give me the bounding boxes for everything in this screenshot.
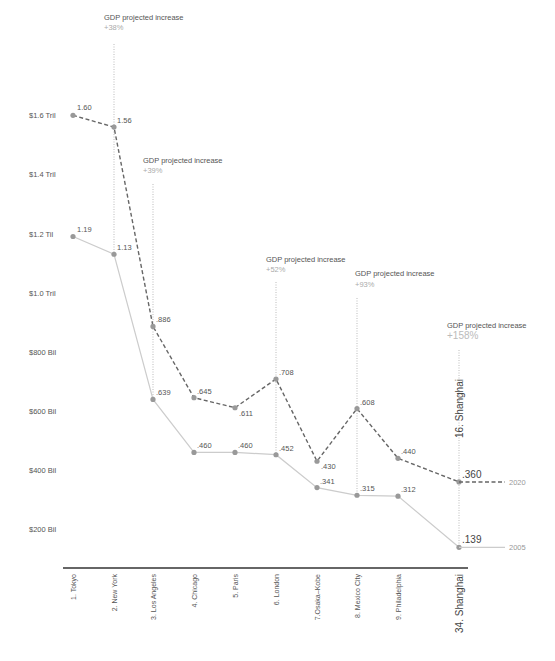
- y-axis-ticks: $1.6 Tril$1.4 Tril$1.2 Til$1.0 Tril$800 …: [29, 111, 56, 534]
- x-category-label: 7.Osaka–Kobe: [314, 574, 321, 620]
- annotation-percent: +158%: [447, 330, 479, 341]
- value-label: 1.13: [117, 243, 132, 252]
- value-label: .440: [401, 447, 416, 456]
- y-tick-label: $600 Bil: [29, 407, 56, 416]
- y-tick-label: $800 Bil: [29, 348, 56, 357]
- x-category-label: 8. Mexico City: [354, 574, 362, 618]
- annotation-title: GDP projected increase: [104, 13, 184, 22]
- data-point: [395, 494, 400, 499]
- data-point: [111, 125, 116, 130]
- value-label: .639: [156, 388, 171, 397]
- y-tick-label: $1.4 Tril: [29, 170, 56, 179]
- annotation-percent: +39%: [143, 166, 163, 175]
- data-point: [191, 395, 196, 400]
- annotation-percent: +38%: [104, 23, 124, 32]
- value-label: .460: [197, 441, 212, 450]
- data-point: [314, 485, 319, 490]
- value-label: .708: [279, 368, 294, 377]
- value-label: .360: [462, 469, 482, 480]
- value-label: .611: [239, 409, 253, 418]
- annotation-labels: GDP projected increase+38%GDP projected …: [104, 13, 527, 438]
- value-label: .341: [320, 477, 335, 486]
- value-label: .312: [401, 485, 416, 494]
- data-point: [232, 405, 237, 410]
- annotation-percent: +93%: [355, 280, 375, 289]
- data-point: [111, 252, 116, 257]
- data-point: [232, 450, 237, 455]
- data-point: [395, 456, 400, 461]
- x-category-label: 9. Philadelphia: [395, 574, 403, 620]
- data-point: [150, 397, 155, 402]
- value-label: .886: [156, 315, 171, 324]
- value-label: .645: [197, 387, 212, 396]
- data-point: [70, 234, 75, 239]
- legend-label-2020: 2020: [509, 478, 526, 487]
- data-point: [191, 450, 196, 455]
- value-label: .139: [462, 534, 482, 545]
- x-category-label: 34. Shanghai: [454, 574, 465, 633]
- x-category-label: 1. Tokyo: [70, 574, 78, 600]
- annotation-title: GDP projected increase: [447, 321, 527, 330]
- value-label: .315: [360, 484, 375, 493]
- gdp-line-chart: $1.6 Tril$1.4 Tril$1.2 Til$1.0 Tril$800 …: [0, 0, 555, 661]
- x-category-label: 2. New York: [111, 574, 118, 612]
- series-line-2020: [73, 115, 459, 482]
- data-point: [273, 452, 278, 457]
- value-label: .608: [360, 398, 375, 407]
- y-tick-label: $200 Bil: [29, 525, 56, 534]
- y-tick-label: $1.6 Tril: [29, 111, 56, 120]
- annotation-title: GDP projected increase: [355, 269, 435, 278]
- annotation-percent: +52%: [266, 265, 286, 274]
- y-tick-label: $1.0 Tril: [29, 289, 56, 298]
- data-point: [273, 376, 278, 381]
- x-category-label: 4. Chicago: [191, 574, 199, 608]
- value-label: 1.60: [77, 103, 92, 112]
- value-label: .452: [279, 444, 294, 453]
- x-category-label: 6. London: [273, 574, 280, 605]
- data-point: [314, 459, 319, 464]
- value-labels: 1.601.56.886.645.611.708.430.608.440.360…: [77, 103, 482, 545]
- x-category-label: 5. Paris: [232, 574, 239, 598]
- series-line-2005: [73, 237, 459, 548]
- data-point: [150, 324, 155, 329]
- legend-label-2005: 2005: [509, 543, 526, 552]
- annotation-title: GDP projected increase: [143, 156, 223, 165]
- y-tick-label: $400 Bil: [29, 466, 56, 475]
- x-category-label: 3. Los Angeles: [150, 574, 158, 620]
- x-axis-labels: 1. Tokyo2. New York3. Los Angeles4. Chic…: [70, 574, 466, 633]
- data-point: [354, 406, 359, 411]
- value-label: 1.56: [117, 116, 132, 125]
- shanghai-2020-rank-label: 16. Shanghai: [454, 379, 465, 438]
- data-point: [354, 493, 359, 498]
- value-label: .430: [321, 462, 336, 471]
- annotation-lines: [114, 44, 459, 547]
- annotation-title: GDP projected increase: [266, 255, 346, 264]
- value-label: .460: [238, 441, 253, 450]
- y-tick-label: $1.2 Til: [29, 230, 54, 239]
- value-label: 1.19: [77, 225, 92, 234]
- data-point: [70, 113, 75, 118]
